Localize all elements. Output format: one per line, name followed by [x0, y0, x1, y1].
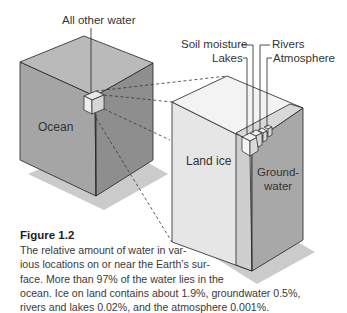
caption-line: face. More than 97% of the water lies in…: [20, 272, 340, 286]
ocean-label: Ocean: [38, 120, 73, 134]
all-other-water-cube: [84, 91, 104, 114]
groundwater-label-line1: Ground-: [257, 166, 299, 178]
caption-line: ocean. Ice on land contains about 1.9%, …: [20, 286, 340, 300]
figure-caption: Figure 1.2 The relative amount of water …: [20, 228, 340, 313]
all-other-water-label: All other water: [62, 14, 136, 26]
caption-line: rivers and lakes 0.02%, and the atmosphe…: [20, 300, 340, 313]
caption-line: ious locations on or near the Earth’s su…: [20, 257, 340, 271]
soil-moisture-cube: [242, 133, 258, 156]
soil-moisture-label: Soil moisture: [181, 38, 247, 50]
groundwater-label-line2: water: [263, 180, 292, 192]
figure-title: Figure 1.2: [20, 228, 340, 242]
rivers-label: Rivers: [272, 38, 305, 50]
land-ice-label: Land ice: [186, 154, 232, 168]
caption-line: The relative amount of water in var-: [20, 243, 340, 257]
lakes-label: Lakes: [212, 52, 243, 64]
atmosphere-label: Atmosphere: [273, 52, 335, 64]
